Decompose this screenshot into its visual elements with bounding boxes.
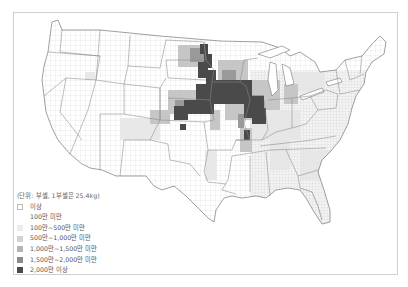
map-legend: (단위: 부셸, 1부셸은 25.4kg) 이상 100만 미만 100만~50… <box>17 191 100 276</box>
legend-swatch-none <box>17 214 23 220</box>
legend-swatch-icon <box>17 236 23 242</box>
legend-swatch-empty-icon <box>17 204 23 210</box>
legend-item-4: 1,000만~1,500만 미만 <box>17 244 100 255</box>
legend-item-5: 1,500만~2,000만 미만 <box>17 255 100 266</box>
legend-unit: (단위: 부셸, 1부셸은 25.4kg) <box>17 191 100 202</box>
legend-item-6: 2,000만 이상 <box>17 265 100 276</box>
legend-swatch-icon <box>17 257 23 263</box>
legend-swatch-icon <box>17 225 23 231</box>
legend-swatch-icon <box>17 246 23 252</box>
legend-swatch-icon <box>17 267 23 273</box>
legend-item-3: 500만~1,000만 미만 <box>17 233 100 244</box>
legend-item-0: 이상 <box>17 202 100 213</box>
legend-item-2: 100만~500만 미만 <box>17 223 100 234</box>
legend-item-1: 100만 미만 <box>17 212 100 223</box>
